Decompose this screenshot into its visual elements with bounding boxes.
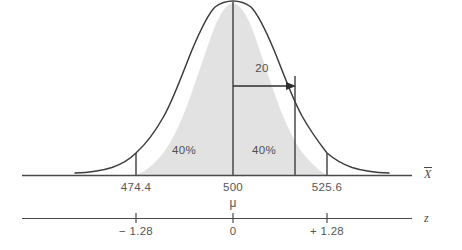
- z-axis-name: z: [424, 212, 429, 224]
- z-axis-tick-label-negative: − 1.28: [119, 226, 153, 238]
- x-axis-tick-label-500: 500: [223, 182, 243, 194]
- x-axis-tick-label-474: 474.4: [121, 182, 151, 194]
- area-label-right-40-percent: 40%: [252, 145, 276, 157]
- mean-symbol-mu: μ: [229, 197, 236, 209]
- area-label-left-40-percent: 40%: [172, 145, 196, 157]
- dimension-label-20: 20: [255, 63, 268, 75]
- x-axis-name-overbar-wrapper: X: [424, 168, 432, 180]
- x-axis-name-text: X: [424, 167, 432, 181]
- normal-distribution-figure: 20 40% 40% 474.4 500 525.6 μ X − 1.28 0 …: [0, 0, 462, 250]
- z-axis-tick-label-positive: + 1.28: [310, 226, 344, 238]
- z-axis-tick-label-zero: 0: [230, 226, 237, 238]
- x-axis-name: X: [424, 168, 432, 180]
- x-axis-tick-label-525: 525.6: [312, 182, 342, 194]
- distribution-chart-svg: [0, 0, 462, 250]
- x-axis-overbar: [424, 167, 432, 168]
- shaded-area-under-curve: [136, 3, 327, 175]
